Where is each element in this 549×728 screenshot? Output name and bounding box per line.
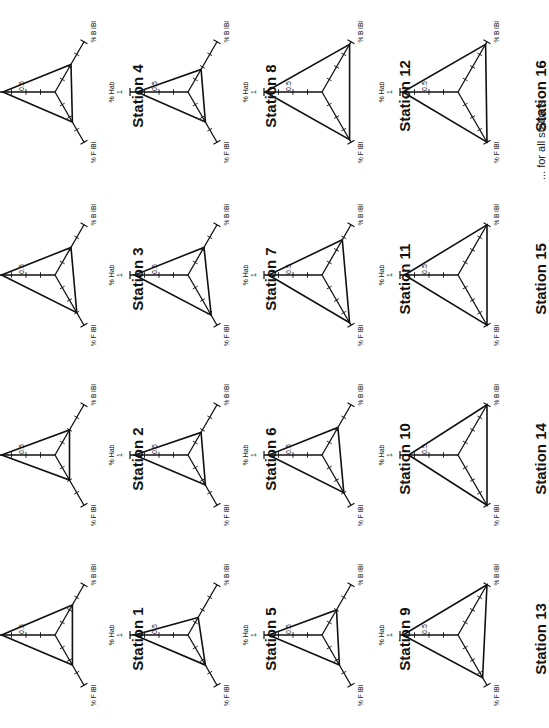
axis-label-fibi: % F IBI [357,504,364,526]
axis-label-bibi: % B IBI [90,564,97,586]
tick-label-0-5: 0.5 [421,444,428,454]
axis-end-cap [214,403,221,407]
axis-label-bibi: % B IBI [493,204,500,226]
data-polygon [403,44,487,142]
axis-label-bibi: % B IBI [357,21,364,43]
axis-label-hab: % Hab [108,444,115,465]
axis-label-bibi: % B IBI [223,384,230,406]
data-polygon [269,610,340,665]
radar-chart-station-2: % Hab10.5% F IBI% B IBIStation 2 [0,384,146,526]
tick-label-1: 1 [116,273,123,277]
axis-end-cap [214,583,221,587]
axis-end-cap [348,683,355,687]
axis-label-hab: % Hab [242,444,249,465]
tick-label-0-5: 0.5 [18,81,25,91]
tick-label-1: 1 [386,273,393,277]
tick-label-0-5: 0.5 [421,624,428,634]
tick-label-0-5: 0.5 [421,81,428,91]
axis-label-bibi: % B IBI [357,564,364,586]
radar-chart-station-4: % Hab10.5% F IBI% B IBIStation 4 [0,21,146,163]
axis-label-bibi: % B IBI [493,384,500,406]
axis-label-bibi: % B IBI [223,564,230,586]
axis-end-cap [214,503,221,507]
tick-label-1: 1 [250,273,257,277]
tick-label-1: 1 [116,90,123,94]
axis-end-cap [81,403,88,407]
axis-label-bibi: % B IBI [357,204,364,226]
axis-end-cap [348,583,355,587]
data-polygon [269,240,350,323]
axis-label-fibi: % F IBI [493,324,500,346]
axis-label-fibi: % F IBI [357,324,364,346]
data-polygon [135,247,212,315]
tick-label-1: 1 [116,633,123,637]
tick-label-0-5: 0.5 [285,444,292,454]
tick-label-0-5: 0.5 [285,81,292,91]
data-polygon [137,69,205,122]
axis-label-hab: % Hab [108,264,115,285]
axis-label-hab: % Hab [378,264,385,285]
axis-end-cap [81,40,88,44]
axis-end-cap [484,683,491,687]
axis-end-cap [348,40,355,44]
axis-label-fibi: % F IBI [90,324,97,346]
axis-label-bibi: % B IBI [90,204,97,226]
radar-chart-station-15: % Hab10.5% F IBI% B IBIStation 15 [378,204,549,346]
axis-label-fibi: % F IBI [357,141,364,163]
axis-end-cap [348,403,355,407]
axis-label-fibi: % F IBI [493,684,500,706]
axis-label-fibi: % F IBI [90,504,97,526]
tick-label-0-5: 0.5 [421,264,428,274]
tick-label-0-5: 0.5 [151,444,158,454]
tick-label-0-5: 0.5 [285,264,292,274]
axis-label-fibi: % F IBI [90,684,97,706]
axis-end-cap [348,140,355,144]
axis-label-hab: % Hab [108,624,115,645]
radar-chart-station-16: % Hab10.5% F IBI% B IBIStation 16 [378,21,549,163]
axis-end-cap [81,683,88,687]
tick-label-0-5: 0.5 [151,624,158,634]
axis-label-fibi: % F IBI [223,324,230,346]
tick-label-0-5: 0.5 [151,81,158,91]
axis-label-bibi: % B IBI [357,384,364,406]
axis-label-fibi: % F IBI [90,141,97,163]
tick-label-1: 1 [116,453,123,457]
tick-label-0-5: 0.5 [285,624,292,634]
axis-label-fibi: % F IBI [223,141,230,163]
axis-label-hab: % Hab [242,264,249,285]
tick-label-0-5: 0.5 [18,624,25,634]
axis-end-cap [81,140,88,144]
axis-label-hab: % Hab [242,81,249,102]
tick-label-0-5: 0.5 [18,444,25,454]
axis-end-cap [81,503,88,507]
radar-chart-station-3: % Hab10.5% F IBI% B IBIStation 3 [0,204,146,346]
tick-label-1: 1 [386,453,393,457]
radar-chart-station-13: % Hab10.5% F IBI% B IBIStation 13 [378,564,549,706]
axis-end-cap [484,40,491,44]
axis-label-bibi: % B IBI [493,564,500,586]
axis-label-hab: % Hab [378,81,385,102]
axis-label-hab: % Hab [378,624,385,645]
tick-label-0-5: 0.5 [18,264,25,274]
axis-end-cap [81,223,88,227]
axis-end-cap [348,323,355,327]
axis-label-fibi: % F IBI [223,684,230,706]
tick-label-1: 1 [386,633,393,637]
axis-end-cap [214,223,221,227]
data-polygon [3,64,73,122]
axis-end-cap [81,583,88,587]
axis-label-bibi: % B IBI [90,21,97,43]
axis-end-cap [214,40,221,44]
axis-end-cap [214,140,221,144]
station-title: Station 10 [396,423,413,495]
axis-label-fibi: % F IBI [357,684,364,706]
axis-end-cap [214,323,221,327]
tick-label-1: 1 [386,90,393,94]
axis-label-hab: % Hab [378,444,385,465]
axis-label-bibi: % B IBI [223,204,230,226]
axis-end-cap [81,323,88,327]
axis-label-bibi: % B IBI [90,384,97,406]
radar-chart-station-14: % Hab10.5% F IBI% B IBIStation 14 [378,384,549,526]
axis-label-bibi: % B IBI [223,21,230,43]
tick-label-0-5: 0.5 [151,264,158,274]
